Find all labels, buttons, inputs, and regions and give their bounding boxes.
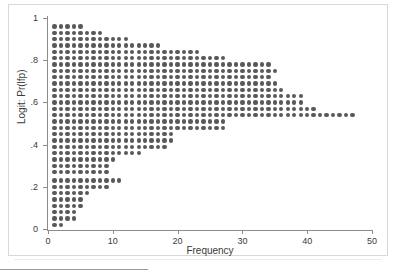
y-axis-tick-mark [43,187,47,188]
y-axis-tick-label: .8 [30,55,38,65]
data-point [169,138,173,142]
data-point [292,107,296,111]
data-point [78,107,82,111]
data-point [117,69,121,73]
data-point [59,185,63,189]
data-point [137,119,141,123]
data-point [111,94,115,98]
data-point [78,204,82,208]
data-point [214,94,218,98]
data-point [240,62,244,66]
data-point [162,132,166,136]
data-point [156,107,160,111]
data-point [162,113,166,117]
data-point [65,24,69,28]
data-point [253,69,257,73]
data-point [214,107,218,111]
data-point [143,56,147,60]
data-point [65,62,69,66]
data-point [156,88,160,92]
data-point [117,107,121,111]
data-point [188,113,192,117]
data-point [117,88,121,92]
data-point [130,151,134,155]
data-point [156,119,160,123]
data-point [124,81,128,85]
data-point [143,119,147,123]
data-point [52,62,56,66]
data-point [208,113,212,117]
data-point [117,43,121,47]
data-point [162,94,166,98]
data-point [91,113,95,117]
data-point [117,119,121,123]
data-point [169,56,173,60]
data-point [98,164,102,168]
data-point [240,100,244,104]
data-point [299,100,303,104]
data-point [286,113,290,117]
data-point [117,145,121,149]
data-point [260,69,264,73]
data-point [324,113,328,117]
data-point [72,151,76,155]
data-point [137,94,141,98]
data-point [65,31,69,35]
data-point [162,138,166,142]
data-point [137,126,141,130]
data-point [111,75,115,79]
data-point [214,100,218,104]
data-point [143,88,147,92]
data-point [72,43,76,47]
data-point [182,62,186,66]
data-point [208,75,212,79]
data-point [214,113,218,117]
data-point [59,37,63,41]
data-point [156,43,160,47]
data-point [124,56,128,60]
data-point [156,100,160,104]
data-point [149,62,153,66]
data-point [162,107,166,111]
data-point [137,107,141,111]
data-point [149,56,153,60]
data-point [149,50,153,54]
data-point [117,151,121,155]
data-point [279,100,283,104]
data-point [137,113,141,117]
data-point [234,113,238,117]
data-point [182,113,186,117]
data-point [149,113,153,117]
data-point [98,145,102,149]
data-point [286,94,290,98]
data-point [78,113,82,117]
data-point [72,75,76,79]
data-point [162,56,166,60]
data-point [111,132,115,136]
data-point [85,178,89,182]
data-point [279,88,283,92]
data-point [182,69,186,73]
data-point [104,56,108,60]
data-point [72,37,76,41]
data-point [175,50,179,54]
data-point [221,100,225,104]
data-point [52,210,56,214]
data-point [143,50,147,54]
data-point [221,94,225,98]
data-point [175,100,179,104]
data-point [137,69,141,73]
data-point [221,113,225,117]
x-axis-tick-mark [372,230,373,234]
data-point [111,88,115,92]
data-point [111,100,115,104]
data-point [162,81,166,85]
data-point [234,100,238,104]
data-point [85,75,89,79]
data-point [104,113,108,117]
data-point [273,81,277,85]
data-point [195,56,199,60]
data-point [72,178,76,182]
data-point [65,113,69,117]
data-point [78,69,82,73]
